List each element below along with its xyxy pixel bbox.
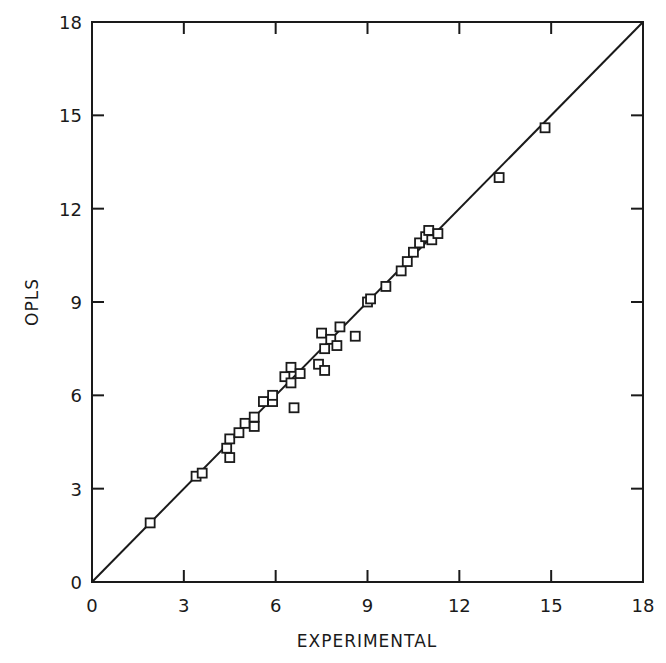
- scatter-chart: 0 3 6 9 12 15 18 0 3 6 9 12 15 18 EXPERI…: [0, 0, 666, 663]
- data-point-square-marker: [286, 378, 295, 387]
- data-point-square-marker: [433, 229, 442, 238]
- data-point-square-marker: [222, 444, 231, 453]
- x-axis-tick-labels: 0 3 6 9 12 15 18: [86, 595, 654, 616]
- data-point-square-marker: [397, 266, 406, 275]
- y-tick-label: 9: [71, 292, 82, 313]
- data-point-square-marker: [366, 294, 375, 303]
- data-point-square-marker: [351, 332, 360, 341]
- data-point-square-marker: [424, 226, 433, 235]
- x-tick-label: 6: [270, 595, 281, 616]
- x-tick-label: 3: [178, 595, 189, 616]
- data-point-square-marker: [320, 344, 329, 353]
- data-point-square-marker: [296, 369, 305, 378]
- y-axis-tick-labels: 0 3 6 9 12 15 18: [59, 12, 82, 593]
- data-point-square-marker: [409, 248, 418, 257]
- data-point-square-marker: [225, 453, 234, 462]
- data-point-square-marker: [250, 413, 259, 422]
- data-point-square-marker: [495, 173, 504, 182]
- data-point-square-marker: [241, 419, 250, 428]
- y-tick-label: 15: [59, 105, 82, 126]
- data-point-square-marker: [225, 434, 234, 443]
- x-tick-label: 0: [86, 595, 97, 616]
- data-point-square-marker: [250, 422, 259, 431]
- data-point-square-marker: [317, 329, 326, 338]
- data-point-square-marker: [381, 282, 390, 291]
- data-point-square-marker: [290, 403, 299, 412]
- data-point-square-marker: [541, 123, 550, 132]
- x-tick-label: 15: [540, 595, 563, 616]
- y-tick-label: 18: [59, 12, 82, 33]
- y-tick-label: 3: [71, 479, 82, 500]
- data-point-square-marker: [146, 518, 155, 527]
- x-tick-label: 12: [448, 595, 471, 616]
- y-tick-label: 12: [59, 199, 82, 220]
- data-point-square-marker: [335, 322, 344, 331]
- x-axis-title: EXPERIMENTAL: [297, 631, 438, 651]
- y-tick-label: 0: [71, 572, 82, 593]
- data-point-square-marker: [332, 341, 341, 350]
- y-axis-title: OPLS: [22, 278, 42, 326]
- data-point-square-marker: [234, 428, 243, 437]
- x-tick-label: 18: [632, 595, 655, 616]
- y-tick-label: 6: [71, 385, 82, 406]
- data-point-square-marker: [403, 257, 412, 266]
- data-point-square-marker: [268, 391, 277, 400]
- data-point-square-marker: [198, 469, 207, 478]
- x-tick-label: 9: [362, 595, 373, 616]
- data-point-square-marker: [259, 397, 268, 406]
- data-point-square-marker: [320, 366, 329, 375]
- data-point-square-marker: [286, 363, 295, 372]
